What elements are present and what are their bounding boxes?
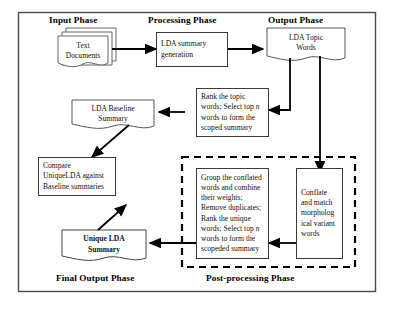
node-group-conflated-words: Group the conflated words and combine th…: [196, 168, 269, 259]
rank-topic-words-line-2: words; Select top n: [201, 102, 264, 112]
group-conflated-words-line-5: Rank the unique: [201, 214, 264, 224]
phase-label-post-processing: Post-processing Phase: [206, 273, 294, 283]
group-conflated-words-line-8: scopeded summary: [201, 244, 264, 254]
node-conflate-match: Conflate and match morpholog ical varian…: [296, 168, 343, 259]
phase-label-processing: Processing Phase: [148, 15, 217, 25]
node-lda-summary-generation: LDA summary generation: [156, 32, 228, 67]
arrow-uniquesummary-to-compare: [98, 205, 126, 230]
arrow-topicwords-to-rank: [269, 58, 290, 110]
lda-topic-words-line-2: Words: [267, 43, 345, 53]
rank-topic-words-line-4: scoped summary: [201, 123, 264, 133]
unique-lda-summary-line-2: Summary: [62, 245, 146, 255]
group-conflated-words-line-2: words and combine: [201, 183, 264, 193]
group-conflated-words-line-1: Group the conflated: [201, 173, 264, 183]
unique-lda-summary-line-1: Unique LDA: [62, 234, 146, 244]
phase-label-input: Input Phase: [49, 15, 97, 25]
conflate-match-line-3: morpholog: [301, 208, 338, 218]
phase-label-output: Output Phase: [268, 15, 323, 25]
conflate-match-line-5: words: [301, 229, 338, 239]
conflate-match-line-2: and match: [301, 198, 338, 208]
conflate-match-line-4: ical variant: [301, 219, 338, 229]
lda-baseline-summary-line-1: LDA Baseline: [72, 104, 154, 114]
flowchart-canvas: Input Phase Processing Phase Output Phas…: [0, 0, 396, 322]
group-conflated-words-line-6: words; Select top n: [201, 224, 264, 234]
rank-topic-words-line-1: Rank the topic: [201, 92, 264, 102]
text-documents-line-2: Documents: [58, 51, 108, 61]
conflate-match-line-1: Conflate: [301, 188, 338, 198]
rank-topic-words-line-3: words to form the: [201, 113, 264, 123]
compare-summaries-line-3: Baseline summaries: [43, 182, 111, 192]
lda-summary-generation-line-1: LDA summary: [161, 39, 223, 49]
group-conflated-words-line-3: their weights;: [201, 193, 264, 203]
lda-summary-generation-line-2: generation: [161, 50, 223, 60]
lda-baseline-summary-line-2: Summary: [72, 114, 154, 124]
node-rank-topic-words: Rank the topic words; Select top n words…: [196, 88, 269, 137]
node-compare-summaries: Compare UniqueLDA against Baseline summa…: [38, 157, 116, 196]
text-documents-line-1: Text: [58, 41, 108, 51]
group-conflated-words-line-7: words to form the: [201, 234, 264, 244]
lda-topic-words-line-1: LDA Topic: [267, 33, 345, 43]
compare-summaries-line-2: UniqueLDA against: [43, 171, 111, 181]
arrow-baseline-to-compare: [92, 125, 129, 157]
group-conflated-words-line-4: Remove duplicates;: [201, 203, 264, 213]
phase-label-final-output: Final Output Phase: [56, 273, 134, 283]
compare-summaries-line-1: Compare: [43, 161, 111, 171]
